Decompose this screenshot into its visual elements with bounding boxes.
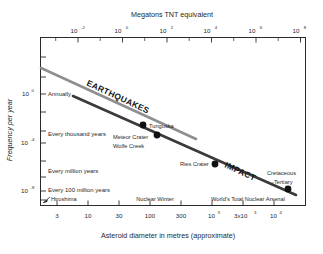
top-tick-exp: 8	[304, 25, 307, 30]
top-tick-base: 10	[160, 27, 167, 34]
top-tick-base: 10	[204, 27, 211, 34]
x-tick-exp: 3	[254, 210, 257, 215]
impact-trend-line	[73, 96, 296, 195]
asteroid-impact-frequency-chart: Megatons TNT equivalent 10 -2 10 0 10 2 …	[0, 0, 323, 254]
top-axis-title: Megatons TNT equivalent	[131, 10, 213, 19]
x-tick-base: 3x10	[234, 212, 248, 219]
left-tick-marks	[41, 57, 47, 200]
y-tick-label: 10 -4	[21, 137, 35, 146]
data-point-tunguska	[140, 122, 147, 129]
annotation-hiroshima: Hiroshima	[51, 196, 77, 202]
left-axis-title: Frequency per year	[5, 98, 14, 161]
y-tick-base: 10	[21, 139, 28, 146]
top-tick-label: 10 4	[204, 25, 218, 34]
x-tick-label: 3	[55, 212, 59, 219]
y-text-label: Every thousand years	[48, 131, 106, 137]
top-tick-labels: 10 -2 10 0 10 2 10 4 10 6 10 8	[71, 25, 307, 34]
top-tick-exp: -2	[81, 25, 85, 30]
annotation-worlds-total-nuclear-arsenal: World's Total Nuclear Arsenal	[211, 196, 285, 202]
top-tick-label: 10 6	[249, 25, 263, 34]
y-tick-base: 10	[22, 90, 29, 97]
bottom-tick-labels: 3 10 30 100 300 10 3 3x10 3 10 4	[55, 210, 282, 219]
x-tick-label: 10 3	[208, 210, 221, 219]
annotation-nuclear-winter: Nuclear Winter	[136, 196, 174, 202]
impact-series-label: IMPACT	[223, 160, 258, 183]
top-tick-marks	[56, 38, 301, 43]
top-tick-label: 10 8	[293, 25, 307, 34]
annotation-tertiary: -Tertiary	[272, 179, 293, 185]
x-tick-base: 10	[208, 212, 215, 219]
y-tick-label: 10 -8	[21, 185, 35, 194]
top-tick-label: 10 0	[115, 25, 129, 34]
data-point-meteor-crater-wolfe-creek	[154, 132, 161, 139]
annotation-wolfe-creek: Wolfe Creek	[113, 143, 144, 149]
x-tick-label: 10	[85, 212, 92, 219]
x-tick-label: 30	[116, 212, 123, 219]
annotation-ries-crater: Ries Crater	[180, 161, 209, 167]
annotation-meteor-crater: Meteor Crater	[113, 134, 148, 140]
top-tick-base: 10	[115, 27, 122, 34]
top-tick-label: 10 2	[160, 25, 174, 34]
annotation-tunguska: Tunguska	[149, 123, 175, 129]
earthquakes-series-label: EARTHQUAKES	[85, 78, 151, 116]
y-text-label: Every million years	[48, 168, 98, 174]
top-tick-label: 10 -2	[71, 25, 86, 34]
y-tick-exp: -8	[31, 185, 35, 190]
y-tick-label: 10 0	[22, 88, 35, 97]
y-tick-labels: 10 0 10 -4 10 -8	[21, 88, 35, 194]
top-tick-exp: 4	[215, 25, 218, 30]
y-text-label: Annually	[48, 91, 71, 97]
y-tick-base: 10	[21, 187, 28, 194]
top-tick-exp: 0	[126, 25, 129, 30]
y-text-label: Every 100 million years	[48, 187, 110, 193]
x-tick-exp: 3	[218, 210, 221, 215]
top-tick-base: 10	[71, 27, 78, 34]
top-tick-exp: 6	[260, 25, 263, 30]
x-tick-label: 100	[145, 212, 156, 219]
y-text-labels: Annually Every thousand years Every mill…	[48, 91, 110, 193]
annotation-cretaceous: Cretaceous	[267, 170, 296, 176]
x-tick-exp: 4	[280, 210, 283, 215]
x-tick-base: 10	[270, 212, 277, 219]
data-point-ries-crater	[212, 161, 219, 168]
x-tick-label: 10 4	[270, 210, 283, 219]
top-tick-base: 10	[293, 27, 300, 34]
chart-svg: Megatons TNT equivalent 10 -2 10 0 10 2 …	[0, 0, 323, 254]
bottom-inplot-annotations: Hiroshima Nuclear Winter World's Total N…	[43, 196, 285, 203]
y-tick-exp: -4	[31, 137, 35, 142]
bottom-axis-title: Asteroid diameter in metres (approximate…	[101, 231, 235, 240]
data-point-cretaceous-tertiary	[285, 186, 292, 193]
top-tick-base: 10	[249, 27, 256, 34]
x-tick-label: 300	[176, 212, 187, 219]
x-tick-label: 3x10 3	[234, 210, 257, 219]
top-tick-exp: 2	[171, 25, 174, 30]
y-tick-exp: 0	[32, 88, 35, 93]
